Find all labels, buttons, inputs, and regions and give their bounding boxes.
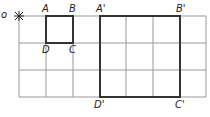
grid-lines <box>19 16 206 97</box>
label-a-prime: A' <box>95 3 106 14</box>
dilation-diagram: o A B D C A' B' D' C' <box>0 0 210 117</box>
label-b: B <box>69 3 76 14</box>
small-square-abcd <box>46 16 73 43</box>
label-a: A <box>41 3 49 14</box>
label-c: C <box>69 44 76 55</box>
label-b-prime: B' <box>176 3 186 14</box>
label-d-prime: D' <box>94 99 104 110</box>
center-star-icon <box>14 11 24 21</box>
label-c-prime: C' <box>175 99 185 110</box>
large-square-abcd-prime <box>100 16 180 97</box>
label-d: D <box>42 44 50 55</box>
edge-label: o <box>1 9 7 20</box>
grid-figure: o A B D C A' B' D' C' <box>0 0 210 117</box>
